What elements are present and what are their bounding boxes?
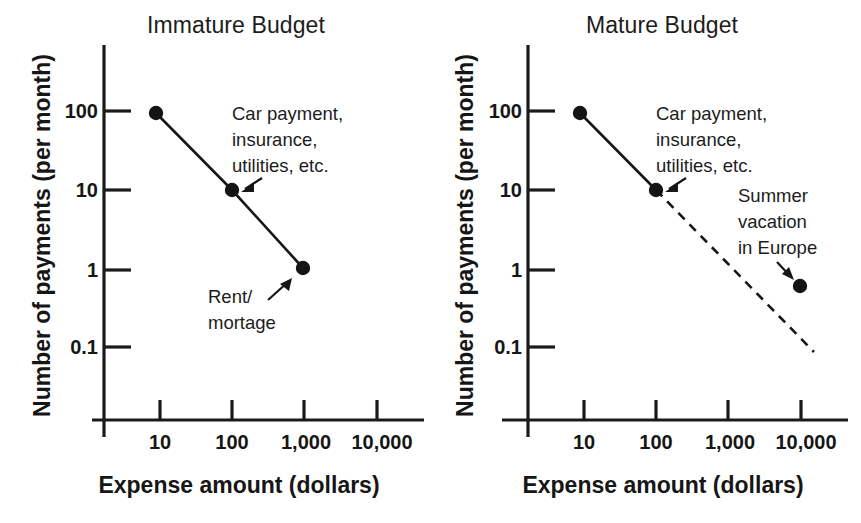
data-point-100-left xyxy=(225,183,239,197)
x-tick-label-100-left: 100 xyxy=(215,431,248,453)
plot-area-immature: 100 10 1 0.1 10 100 1,000 10,000 Car pay… xyxy=(0,0,430,523)
annotation-vacation-line3-right: in Europe xyxy=(738,237,817,258)
x-tick-label-100-right: 100 xyxy=(639,431,672,453)
data-point-1000-left xyxy=(296,261,310,275)
plot-area-mature: 100 10 1 0.1 10 100 1,000 10,000 Car pay… xyxy=(430,0,860,523)
annotation-arrow-recurring-left xyxy=(241,178,262,192)
y-tick-label-100-left: 100 xyxy=(65,100,98,122)
x-tick-label-1000-right: 1,000 xyxy=(705,431,755,453)
series-budget-items-right xyxy=(580,113,656,190)
panel-mature-budget: Mature Budget Number of payments (per mo… xyxy=(430,0,860,523)
annotation-recurring-line1-right: Car payment, xyxy=(656,103,767,124)
y-tick-label-1-right: 1 xyxy=(511,259,522,281)
y-tick-label-0.1-left: 0.1 xyxy=(70,336,98,358)
annotation-recurring-line1-left: Car payment, xyxy=(232,103,343,124)
annotation-recurring-line2-right: insurance, xyxy=(656,129,741,150)
data-point-vacation-right xyxy=(793,279,807,293)
annotation-recurring-line3-right: utilities, etc. xyxy=(656,155,753,176)
annotation-vacation-line1-right: Summer xyxy=(738,185,808,206)
x-tick-label-10-right: 10 xyxy=(573,431,595,453)
y-tick-label-10-right: 10 xyxy=(500,179,522,201)
data-point-10-left xyxy=(149,106,163,120)
annotation-arrow-rent-left xyxy=(268,278,292,300)
x-tick-label-10000-left: 10,000 xyxy=(351,431,412,453)
y-tick-label-0.1-right: 0.1 xyxy=(494,336,522,358)
x-tick-label-10000-right: 10,000 xyxy=(775,431,836,453)
annotation-arrow-recurring-right xyxy=(665,178,686,192)
annotation-arrow-vacation-right xyxy=(777,262,794,280)
y-tick-label-100-right: 100 xyxy=(489,100,522,122)
annotation-recurring-line3-left: utilities, etc. xyxy=(232,155,329,176)
annotation-rent-line1-left: Rent/ xyxy=(208,286,253,307)
x-tick-label-10-left: 10 xyxy=(149,431,171,453)
annotation-vacation-line2-right: vacation xyxy=(738,211,807,232)
annotation-rent-line2-left: mortage xyxy=(208,312,276,333)
panel-immature-budget: Immature Budget Number of payments (per … xyxy=(0,0,430,523)
y-tick-label-10-left: 10 xyxy=(76,179,98,201)
y-tick-label-1-left: 1 xyxy=(87,259,98,281)
annotation-recurring-line2-left: insurance, xyxy=(232,129,317,150)
data-point-10-right xyxy=(573,106,587,120)
x-tick-label-1000-left: 1,000 xyxy=(281,431,331,453)
budget-log-log-figure: Immature Budget Number of payments (per … xyxy=(0,0,861,523)
data-point-100-right xyxy=(649,183,663,197)
